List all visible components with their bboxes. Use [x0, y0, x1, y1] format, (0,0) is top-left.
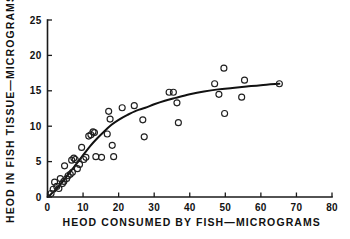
data-point	[212, 81, 218, 87]
data-point	[131, 103, 137, 109]
data-point	[170, 89, 176, 95]
data-point	[216, 91, 222, 97]
y-tick-label: 0	[36, 192, 42, 203]
figure-page: 010203040506070800510152025HEOD CONSUMED…	[0, 0, 350, 239]
data-point	[79, 144, 85, 150]
x-tick-label: 80	[326, 202, 338, 213]
y-tick-label: 5	[36, 156, 42, 167]
data-point	[140, 117, 146, 123]
data-point	[222, 110, 228, 116]
data-point	[141, 134, 147, 140]
data-point	[62, 163, 68, 169]
axes-group: 010203040506070800510152025	[30, 15, 338, 213]
y-tick-label: 20	[30, 50, 42, 61]
data-point	[242, 77, 248, 83]
y-tick-label: 25	[30, 15, 42, 26]
data-point	[174, 100, 180, 106]
data-point	[107, 116, 113, 122]
data-point	[221, 65, 227, 71]
data-point	[109, 142, 115, 148]
x-tick-label: 50	[219, 202, 231, 213]
x-tick-label: 0	[45, 202, 51, 213]
data-point	[111, 154, 117, 160]
x-tick-label: 40	[184, 202, 196, 213]
data-point	[72, 156, 78, 162]
data-point	[104, 131, 110, 137]
x-axis-title-text: HEOD CONSUMED BY FISH—MICROGRAMS	[63, 216, 321, 228]
x-tick-label: 70	[291, 202, 303, 213]
y-tick-label: 15	[30, 85, 42, 96]
y-axis-title-text: HEOD IN FISH TISSUE—MICROGRAMS	[4, 0, 16, 223]
data-point	[106, 108, 112, 114]
x-tick-label: 30	[148, 202, 160, 213]
data-point	[119, 105, 125, 111]
y-tick-label: 10	[30, 121, 42, 132]
data-point	[99, 154, 105, 160]
data-point	[239, 94, 245, 100]
scatter-chart: 010203040506070800510152025HEOD CONSUMED…	[0, 0, 350, 239]
data-point	[93, 154, 99, 160]
x-tick-label: 60	[255, 202, 267, 213]
data-point	[175, 120, 181, 126]
x-tick-label: 10	[77, 202, 89, 213]
x-tick-label: 20	[113, 202, 125, 213]
fitted-curve	[50, 84, 280, 196]
data-points-group	[48, 65, 282, 196]
